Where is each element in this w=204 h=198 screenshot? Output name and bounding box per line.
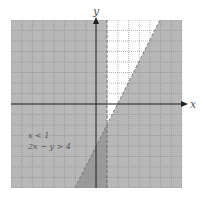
x-axis-label: x xyxy=(190,98,197,111)
inequality-2-label: 2x − y > 4 xyxy=(27,142,71,151)
inequality-1-label: x < 1 xyxy=(28,131,49,140)
x-axis-arrow-icon xyxy=(181,101,188,107)
graph-canvas: x y x < 1 2x − y > 4 xyxy=(0,0,204,198)
y-axis-label: y xyxy=(92,5,100,18)
inequality-graph: x y x < 1 2x − y > 4 xyxy=(0,0,204,198)
